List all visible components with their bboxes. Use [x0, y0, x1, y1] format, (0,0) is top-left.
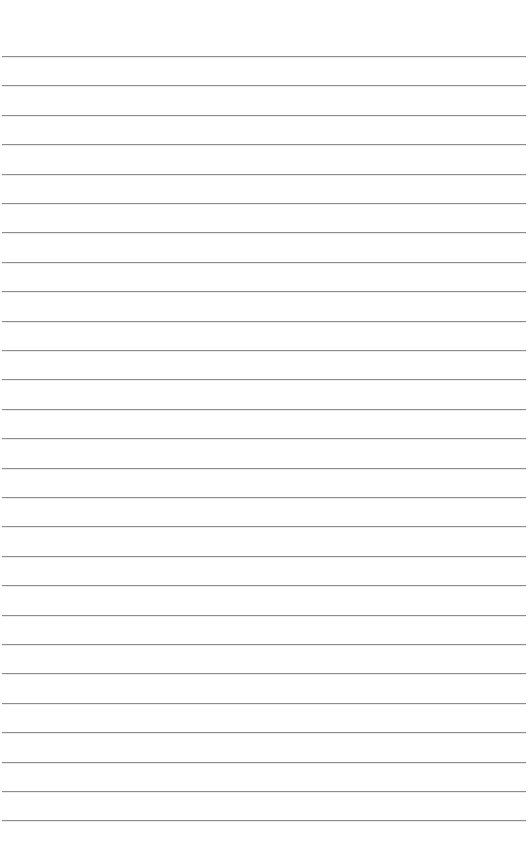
ruled-line: [2, 820, 526, 821]
ruled-line: [2, 203, 526, 204]
ruled-line: [2, 585, 526, 586]
ruled-line: [2, 291, 526, 292]
ruled-line: [2, 673, 526, 674]
ruled-line: [2, 468, 526, 469]
ruled-line: [2, 115, 526, 116]
ruled-line: [2, 262, 526, 263]
ruled-line: [2, 409, 526, 410]
ruled-line: [2, 526, 526, 527]
ruled-line: [2, 732, 526, 733]
ruled-line: [2, 615, 526, 616]
ruled-line: [2, 350, 526, 351]
ruled-line: [2, 85, 526, 86]
lined-paper-sheet: [0, 0, 530, 867]
ruled-line: [2, 174, 526, 175]
ruled-line: [2, 321, 526, 322]
ruled-line: [2, 644, 526, 645]
ruled-line: [2, 703, 526, 704]
ruled-line: [2, 762, 526, 763]
ruled-line: [2, 232, 526, 233]
ruled-line: [2, 144, 526, 145]
ruled-line: [2, 497, 526, 498]
ruled-line: [2, 438, 526, 439]
ruled-line: [2, 791, 526, 792]
ruled-line: [2, 56, 526, 57]
ruled-line: [2, 556, 526, 557]
ruled-line: [2, 379, 526, 380]
